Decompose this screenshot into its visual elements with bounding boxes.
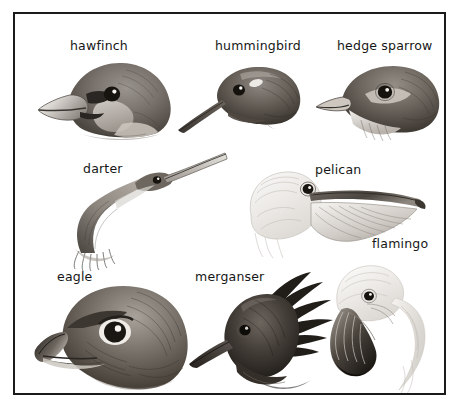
illustration-plate: hawfinch <box>13 12 446 395</box>
label-merganser: merganser <box>195 271 264 284</box>
figure-eagle <box>29 270 199 395</box>
label-eagle: eagle <box>57 271 92 284</box>
figure-hedge-sparrow <box>313 52 446 144</box>
label-pelican: pelican <box>315 164 361 177</box>
figure-hawfinch <box>30 50 180 142</box>
label-hedge-sparrow: hedge sparrow <box>337 40 433 53</box>
figure-flamingo <box>315 254 446 395</box>
label-hummingbird: hummingbird <box>215 40 301 53</box>
label-flamingo: flamingo <box>372 238 428 251</box>
label-hawfinch: hawfinch <box>70 40 128 53</box>
figure-hummingbird <box>170 52 315 138</box>
label-darter: darter <box>83 163 123 176</box>
